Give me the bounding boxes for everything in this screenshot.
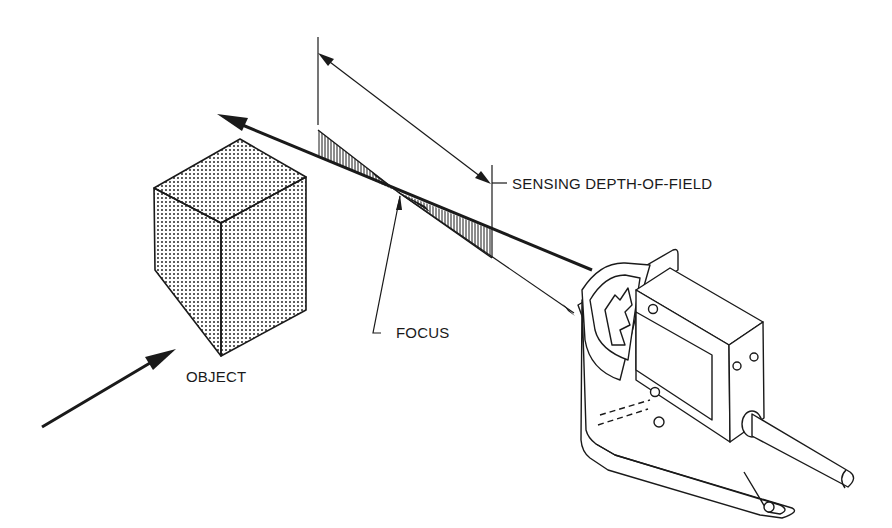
diagram-canvas: SENSING DEPTH-OF-FIELD FOCUS OBJECT (0, 0, 892, 528)
diagram-drawing (0, 0, 892, 528)
label-object: OBJECT (186, 368, 246, 385)
object-cube (154, 139, 306, 356)
label-sensing-depth-of-field: SENSING DEPTH-OF-FIELD (512, 175, 712, 192)
focus-leader (373, 195, 402, 333)
label-focus: FOCUS (396, 324, 450, 341)
incoming-motion-arrow (42, 349, 176, 427)
photoelectric-sensor (578, 250, 854, 519)
